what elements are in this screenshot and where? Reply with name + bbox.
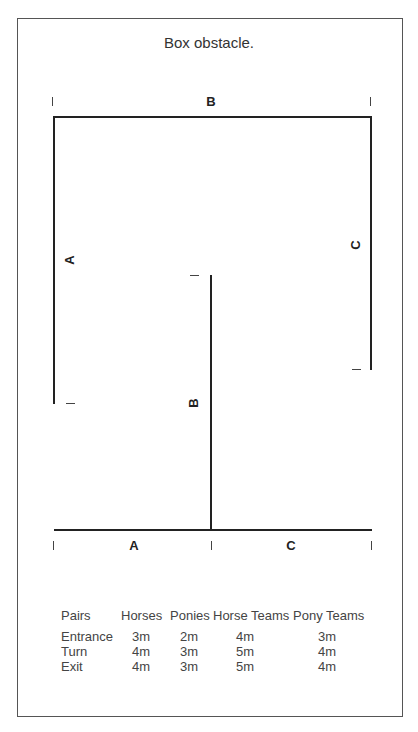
top-right-tick <box>370 97 371 106</box>
row-entrance-pony-teams: 3m <box>318 629 336 644</box>
box-top-line <box>53 116 372 118</box>
left-end-tick <box>66 403 75 404</box>
label-right-c: C <box>348 235 364 255</box>
top-left-tick <box>52 97 53 106</box>
row-exit-horse-teams: 5m <box>236 659 254 674</box>
bottom-right-tick <box>371 541 372 550</box>
middle-start-tick <box>190 275 199 276</box>
label-bottom-a: A <box>124 538 144 554</box>
figure-title: Box obstacle. <box>0 34 418 51</box>
row-turn-pony-teams: 4m <box>318 644 336 659</box>
box-bottom-line <box>54 529 372 531</box>
box-right-line <box>370 116 372 370</box>
bottom-left-tick <box>53 541 54 550</box>
header-pairs: Pairs <box>61 608 91 623</box>
right-end-tick <box>352 369 361 370</box>
label-left-a: A <box>62 250 78 270</box>
header-ponies: Ponies <box>170 608 210 623</box>
header-horses: Horses <box>121 608 162 623</box>
header-pony-teams: Pony Teams <box>293 608 364 623</box>
label-middle-b: B <box>186 393 202 413</box>
row-entrance-horse-teams: 4m <box>236 629 254 644</box>
row-exit-pony-teams: 4m <box>318 659 336 674</box>
bottom-middle-tick <box>211 541 212 550</box>
row-turn-ponies: 3m <box>180 644 198 659</box>
row-exit-ponies: 3m <box>180 659 198 674</box>
box-left-line <box>53 116 55 404</box>
row-turn-label: Turn <box>61 644 87 659</box>
label-top-b: B <box>201 94 221 110</box>
row-exit-label: Exit <box>61 659 83 674</box>
header-horse-teams: Horse Teams <box>213 608 289 623</box>
label-bottom-c: C <box>281 538 301 554</box>
row-entrance-ponies: 2m <box>180 629 198 644</box>
row-entrance-label: Entrance <box>61 629 113 644</box>
row-turn-horse-teams: 5m <box>236 644 254 659</box>
row-entrance-horses: 3m <box>132 629 150 644</box>
middle-divider-line <box>210 275 212 531</box>
row-exit-horses: 4m <box>132 659 150 674</box>
row-turn-horses: 4m <box>132 644 150 659</box>
